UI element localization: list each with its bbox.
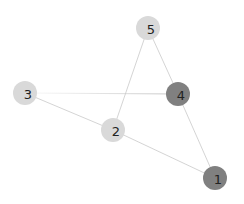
node-3[interactable]: 3 [13, 81, 37, 105]
node-2[interactable]: 2 [101, 118, 125, 142]
edge-3-2 [25, 93, 113, 130]
edge-5-2 [113, 28, 148, 130]
node-label: 3 [24, 87, 32, 102]
edge-2-1 [113, 130, 215, 178]
edges-layer [25, 28, 215, 178]
network-graph: 12345 [0, 0, 244, 204]
node-label: 5 [147, 22, 155, 37]
node-5[interactable]: 5 [136, 16, 160, 40]
edge-3-4 [25, 93, 178, 94]
node-label: 1 [214, 172, 222, 187]
node-4[interactable]: 4 [166, 82, 190, 106]
node-label: 4 [177, 88, 185, 103]
edge-4-1 [178, 94, 215, 178]
node-label: 2 [112, 124, 120, 139]
nodes-layer: 12345 [13, 16, 227, 190]
node-1[interactable]: 1 [203, 166, 227, 190]
